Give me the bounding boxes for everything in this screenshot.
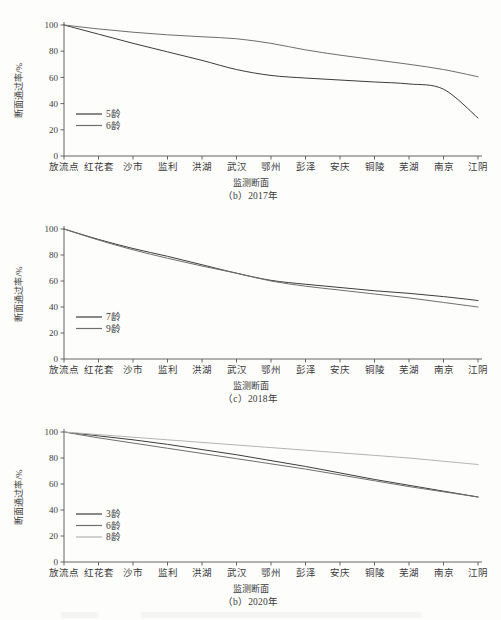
legend-label-3龄: 3龄 — [106, 508, 121, 519]
x-tick-label: 鄂州 — [261, 162, 281, 172]
y-tick-label: 100 — [45, 20, 59, 30]
x-tick-label: 监利 — [158, 364, 178, 375]
y-tick-label: 100 — [45, 224, 59, 234]
x-tick-label: 江阴 — [468, 365, 488, 375]
x-tick-label: 红花套 — [84, 364, 114, 375]
x-tick-label: 安庆 — [330, 161, 350, 172]
axes-2020: 020406080100断面通过率/%放流点红花套沙市监利洪湖武汉鄂州彭泽安庆铜… — [13, 427, 488, 578]
series-line-6龄 — [64, 432, 478, 497]
x-tick-label: 红花套 — [84, 567, 114, 578]
legend-label-8龄: 8龄 — [106, 531, 121, 542]
legend-label-9龄: 9龄 — [106, 323, 121, 334]
legend-label-6龄: 6龄 — [106, 520, 121, 531]
series-line-7龄 — [64, 229, 478, 301]
x-tick-label: 南京 — [434, 161, 454, 172]
y-tick-label: 100 — [45, 427, 59, 437]
y-tick-label: 20 — [49, 531, 59, 541]
y-tick-label: 0 — [54, 354, 59, 364]
x-tick-label: 武汉 — [227, 161, 247, 172]
x-tick-label: 彭泽 — [296, 161, 316, 172]
series-line-8龄 — [64, 432, 478, 465]
chart-panel-2020: 020406080100断面通过率/%放流点红花套沙市监利洪湖武汉鄂州彭泽安庆铜… — [0, 410, 501, 620]
x-tick-label: 放流点 — [49, 161, 79, 172]
axes-2018: 020406080100断面通过率/%放流点红花套沙市监利洪湖武汉鄂州彭泽安庆铜… — [13, 224, 488, 375]
x-tick-label: 安庆 — [330, 567, 350, 578]
x-tick-label: 洪湖 — [192, 161, 212, 172]
x-tick-label: 彭泽 — [296, 567, 316, 578]
legend-label-7龄: 7龄 — [106, 311, 121, 322]
legend-label-5龄: 5龄 — [106, 108, 121, 119]
y-tick-label: 80 — [49, 46, 59, 56]
y-tick-label: 60 — [49, 73, 59, 83]
x-tick-label: 芜湖 — [399, 567, 419, 578]
y-tick-label: 20 — [49, 328, 59, 338]
figure-page: 020406080100断面通过率/%放流点红花套沙市监利洪湖武汉鄂州彭泽安庆铜… — [0, 0, 501, 620]
series-line-9龄 — [64, 229, 478, 307]
x-tick-label: 监利 — [158, 161, 178, 172]
x-tick-label: 安庆 — [330, 364, 350, 375]
y-tick-label: 40 — [49, 99, 59, 109]
x-tick-label: 鄂州 — [261, 568, 281, 578]
x-tick-label: 武汉 — [227, 364, 247, 375]
x-tick-label: 芜湖 — [399, 364, 419, 375]
x-tick-label: 芜湖 — [399, 161, 419, 172]
x-tick-label: 彭泽 — [296, 364, 316, 375]
series-line-5龄 — [64, 25, 478, 118]
x-tick-label: 洪湖 — [192, 567, 212, 578]
y-tick-label: 40 — [49, 302, 59, 312]
x-tick-label: 放流点 — [49, 567, 79, 578]
panel-caption-2020: （b）2020年 — [0, 594, 501, 608]
y-tick-label: 80 — [49, 453, 59, 463]
y-tick-label: 20 — [49, 125, 59, 135]
x-tick-label: 洪湖 — [192, 364, 212, 375]
page-footer-artifact — [0, 612, 501, 618]
x-tick-label: 南京 — [434, 567, 454, 578]
x-tick-label: 武汉 — [227, 567, 247, 578]
panel-caption-2018: （c）2018年 — [0, 391, 501, 405]
y-tick-label: 40 — [49, 505, 59, 515]
series-line-6龄 — [64, 25, 478, 77]
legend-label-6龄: 6龄 — [106, 120, 121, 131]
x-tick-label: 沙市 — [123, 567, 143, 578]
chart-panel-2018: 020406080100断面通过率/%放流点红花套沙市监利洪湖武汉鄂州彭泽安庆铜… — [0, 207, 501, 410]
x-tick-label: 沙市 — [123, 364, 143, 375]
x-tick-label: 铜陵 — [365, 161, 385, 172]
x-tick-label: 监利 — [158, 567, 178, 578]
x-tick-label: 江阴 — [468, 162, 488, 172]
x-tick-label: 鄂州 — [261, 365, 281, 375]
x-tick-label: 沙市 — [123, 161, 143, 172]
y-tick-label: 0 — [54, 151, 59, 161]
x-tick-label: 南京 — [434, 364, 454, 375]
x-tick-label: 铜陵 — [365, 364, 385, 375]
y-axis-title: 断面通过率/% — [13, 266, 24, 322]
y-tick-label: 60 — [49, 479, 59, 489]
x-tick-label: 铜陵 — [365, 567, 385, 578]
panel-caption-2017: （b）2017年 — [0, 188, 501, 202]
y-axis-title: 断面通过率/% — [13, 62, 24, 118]
x-tick-label: 红花套 — [84, 161, 114, 172]
chart-panel-2017: 020406080100断面通过率/%放流点红花套沙市监利洪湖武汉鄂州彭泽安庆铜… — [0, 0, 501, 207]
x-tick-label: 江阴 — [468, 568, 488, 578]
axes-2017: 020406080100断面通过率/%放流点红花套沙市监利洪湖武汉鄂州彭泽安庆铜… — [13, 20, 488, 172]
y-tick-label: 60 — [49, 276, 59, 286]
y-axis-title: 断面通过率/% — [13, 469, 24, 525]
y-tick-label: 80 — [49, 250, 59, 260]
y-tick-label: 0 — [54, 557, 59, 567]
x-tick-label: 放流点 — [49, 364, 79, 375]
